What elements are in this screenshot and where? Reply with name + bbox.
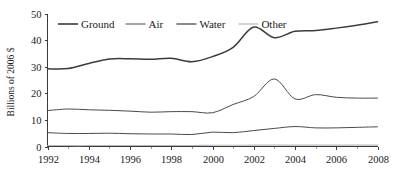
y-tick-label: 50 — [31, 9, 42, 20]
x-tick-label: 2008 — [368, 154, 389, 165]
series-line-air — [48, 127, 378, 135]
x-tick-label: 2002 — [244, 154, 265, 165]
x-tick-label: 2006 — [326, 154, 347, 165]
x-tick-label: 2000 — [203, 154, 224, 165]
legend-label-other[interactable]: Other — [261, 18, 286, 30]
x-tick-label: 1992 — [38, 154, 59, 165]
y-tick-label: 0 — [36, 142, 41, 153]
y-tick-label: 10 — [31, 115, 42, 126]
legend-label-water[interactable]: Water — [199, 18, 225, 30]
y-tick-label: 20 — [31, 88, 42, 99]
x-tick-label: 1998 — [161, 154, 182, 165]
y-tick-label: 40 — [31, 35, 42, 46]
x-tick-label: 1996 — [120, 154, 141, 165]
legend-label-air[interactable]: Air — [149, 18, 164, 30]
series-line-water — [48, 79, 378, 113]
axes — [48, 14, 378, 147]
x-tick-label: 1994 — [79, 154, 101, 165]
data-series-layer — [48, 22, 378, 146]
chart-canvas: Billions of 2006 $ 01020304050 199219941… — [0, 0, 395, 176]
y-tick-label: 30 — [31, 62, 42, 73]
x-axis-ticks — [49, 147, 379, 151]
x-tick-label: 2004 — [285, 154, 307, 165]
axis-lines — [48, 14, 378, 147]
y-axis-title: Billions of 2006 $ — [6, 47, 16, 116]
legend-label-ground[interactable]: Ground — [81, 18, 115, 30]
line-chart: Billions of 2006 $ 01020304050 199219941… — [0, 0, 395, 176]
y-axis-title-text: Billions of 2006 $ — [6, 47, 16, 116]
x-axis-tick-labels: 199219941996199820002002200420062008 — [38, 154, 389, 165]
y-axis-tick-labels: 01020304050 — [31, 9, 42, 153]
